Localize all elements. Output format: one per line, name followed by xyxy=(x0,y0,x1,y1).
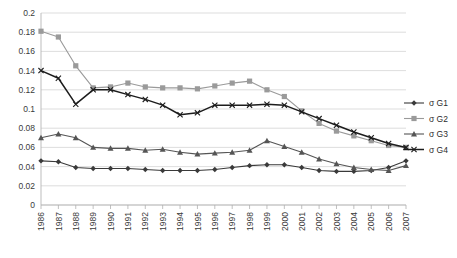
y-axis-tick-label: 0.02 xyxy=(18,181,35,191)
line-chart: 0.20.180.160.140.120.10.080.060.040.0201… xyxy=(0,0,457,258)
data-point-marker xyxy=(247,79,252,84)
chart-canvas: 0.20.180.160.140.120.10.080.060.040.0201… xyxy=(0,0,457,258)
data-point-marker xyxy=(403,163,409,168)
legend-label: σ G3 xyxy=(429,129,448,139)
data-point-marker xyxy=(212,167,217,172)
y-axis-tick-label: 0.06 xyxy=(18,142,35,152)
data-point-marker xyxy=(316,168,321,173)
y-axis-tick-label: 0.08 xyxy=(18,123,35,133)
data-point-marker xyxy=(160,168,165,173)
legend-item-2[interactable]: σ G2 xyxy=(404,114,448,124)
data-point-marker xyxy=(55,131,61,136)
data-point-marker xyxy=(73,102,78,107)
data-point-marker xyxy=(316,121,321,126)
x-axis-tick-label: 1996 xyxy=(210,212,220,231)
y-axis-tick-label: 0 xyxy=(30,200,35,210)
data-point-marker xyxy=(143,84,148,89)
data-point-marker xyxy=(264,138,270,143)
y-axis-tick-label: 0.18 xyxy=(18,27,35,37)
data-point-marker xyxy=(143,167,148,172)
data-point-marker xyxy=(160,85,165,90)
data-point-marker xyxy=(299,165,304,170)
x-axis-tick-label: 1994 xyxy=(175,212,185,231)
x-axis-tick-label: 1986 xyxy=(36,212,46,231)
data-point-marker xyxy=(334,169,339,174)
data-point-marker xyxy=(56,159,61,164)
x-axis-tick-label: 1995 xyxy=(193,212,203,231)
data-point-marker xyxy=(73,165,78,170)
x-axis-tick-label: 1989 xyxy=(88,212,98,231)
data-point-marker xyxy=(264,87,269,92)
x-axis-tick-label: 1991 xyxy=(123,212,133,231)
y-axis-tick-label: 0.2 xyxy=(23,8,35,18)
x-axis-tick-label: 2004 xyxy=(349,212,359,231)
x-axis-tick-label: 1990 xyxy=(106,212,116,231)
x-axis-tick-label: 1998 xyxy=(245,212,255,231)
data-point-marker xyxy=(282,94,287,99)
legend-label: σ G1 xyxy=(429,98,448,108)
data-point-marker xyxy=(38,29,43,34)
data-point-marker xyxy=(125,80,130,85)
data-point-marker xyxy=(195,168,200,173)
data-point-marker xyxy=(411,100,416,105)
data-point-marker xyxy=(56,34,61,39)
data-point-marker xyxy=(411,116,416,121)
x-axis-tick-label: 1987 xyxy=(54,212,64,231)
legend-item-1[interactable]: σ G1 xyxy=(404,98,448,108)
x-axis-tick-label: 1999 xyxy=(262,212,272,231)
y-axis-tick-label: 0.14 xyxy=(18,66,35,76)
data-point-marker xyxy=(229,165,234,170)
y-axis-tick-label: 0.12 xyxy=(18,85,35,95)
y-axis-tick-label: 0.04 xyxy=(18,162,35,172)
x-axis-tick-label: 2003 xyxy=(332,212,342,231)
y-axis-tick-label: 0.16 xyxy=(18,46,35,56)
x-axis-tick-label: 2006 xyxy=(384,212,394,231)
legend-item-4[interactable]: σ G4 xyxy=(404,145,448,155)
legend-label: σ G4 xyxy=(429,145,448,155)
x-axis-tick-label: 2002 xyxy=(314,212,324,231)
data-point-marker xyxy=(230,80,235,85)
x-axis-tick-label: 1992 xyxy=(140,212,150,231)
data-point-marker xyxy=(334,128,339,133)
data-point-marker xyxy=(38,158,43,163)
x-axis-tick-label: 1997 xyxy=(227,212,237,231)
x-axis-tick-label: 2007 xyxy=(401,212,411,231)
x-axis-tick-label: 1993 xyxy=(158,212,168,231)
data-point-marker xyxy=(177,85,182,90)
y-axis-tick-label: 0.1 xyxy=(23,104,35,114)
legend: σ G1σ G2σ G3σ G4 xyxy=(404,98,448,155)
x-axis-tick-label: 1988 xyxy=(71,212,81,231)
data-point-marker xyxy=(195,86,200,91)
data-point-marker xyxy=(177,168,182,173)
data-point-marker xyxy=(247,163,252,168)
x-axis-tick-label: 2000 xyxy=(280,212,290,231)
legend-item-3[interactable]: σ G3 xyxy=(404,129,448,139)
series-line xyxy=(41,134,406,170)
data-point-marker xyxy=(73,63,78,68)
x-axis-group: 1986198719881989199019911992199319941995… xyxy=(36,205,411,231)
legend-label: σ G2 xyxy=(429,114,448,124)
grid-group: 0.20.180.160.140.120.10.080.060.040.020 xyxy=(18,8,406,210)
x-axis-tick-label: 2005 xyxy=(366,212,376,231)
data-point-marker xyxy=(212,83,217,88)
x-axis-tick-label: 2001 xyxy=(297,212,307,231)
